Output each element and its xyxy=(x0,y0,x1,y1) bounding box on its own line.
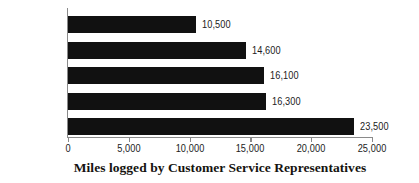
x-tick-mark xyxy=(129,138,130,142)
x-axis-line xyxy=(67,137,373,138)
chart-axis-title: Miles logged by Customer Service Represe… xyxy=(68,160,372,176)
x-tick-label: 5,000 xyxy=(117,143,140,154)
bar-value-label: 16,300 xyxy=(272,96,301,107)
x-tick-mark xyxy=(190,138,191,142)
x-tick-label: 25,000 xyxy=(358,143,387,154)
bar xyxy=(68,67,264,84)
bar-row: 16,100 xyxy=(68,67,301,84)
bar-value-label: 10,500 xyxy=(202,19,231,30)
bar-value-label: 16,100 xyxy=(270,70,299,81)
x-tick-mark xyxy=(68,138,69,142)
bar xyxy=(68,93,266,110)
x-tick-label: 15,000 xyxy=(236,143,265,154)
x-tick-mark xyxy=(311,138,312,142)
bar-row: 23,500 xyxy=(68,118,391,135)
x-tick-mark xyxy=(250,138,251,142)
bar xyxy=(68,16,196,33)
bar-chart: 10,50014,60016,10016,30023,500 DecemberN… xyxy=(0,0,419,183)
plot-area: 10,50014,60016,10016,30023,500 xyxy=(68,8,372,137)
x-tick-mark xyxy=(372,138,373,142)
x-tick-label: 10,000 xyxy=(175,143,204,154)
bar xyxy=(68,42,246,59)
bar-value-label: 23,500 xyxy=(360,121,389,132)
bar-row: 14,600 xyxy=(68,42,283,59)
bar-row: 16,300 xyxy=(68,93,303,110)
x-tick-label: 0 xyxy=(65,143,70,154)
x-tick-label: 20,000 xyxy=(297,143,326,154)
bar-row: 10,500 xyxy=(68,16,233,33)
bar xyxy=(68,118,354,135)
bar-value-label: 14,600 xyxy=(252,45,281,56)
